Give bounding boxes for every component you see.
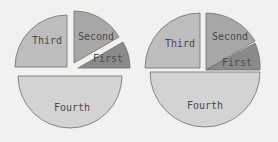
label-first: First	[93, 53, 123, 64]
label-fourth: Fourth	[187, 100, 223, 111]
label-third: Third	[32, 35, 62, 46]
label-fourth: Fourth	[54, 102, 90, 113]
label-second: Second	[212, 31, 248, 42]
label-third: Third	[165, 38, 195, 49]
label-second: Second	[78, 31, 114, 42]
pie-charts: Third Second First Fourth Third Second F…	[0, 0, 278, 142]
pie-chart-left: Third Second First Fourth	[15, 11, 130, 128]
pie-chart-right: Third Second First Fourth	[145, 13, 260, 127]
label-first: First	[222, 57, 252, 68]
